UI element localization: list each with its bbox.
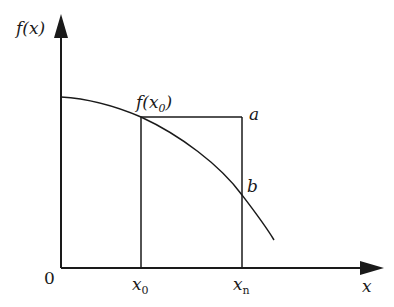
point-a-label: a <box>249 104 259 124</box>
x0-tick-label: x0 <box>132 274 149 297</box>
origin-label: 0 <box>44 268 55 288</box>
y-axis-label: f(x) <box>14 18 45 38</box>
y-axis-arrow-icon <box>54 14 68 38</box>
diagram-canvas: f(x) f(x0) a b 0 x0 xn x <box>0 0 394 307</box>
x-axis-arrow-icon <box>360 261 384 275</box>
xn-tick-label: xn <box>233 274 250 297</box>
x-axis-label: x <box>362 276 372 296</box>
point-b-label: b <box>247 176 258 196</box>
f-x0-label: f(x0) <box>134 92 172 115</box>
